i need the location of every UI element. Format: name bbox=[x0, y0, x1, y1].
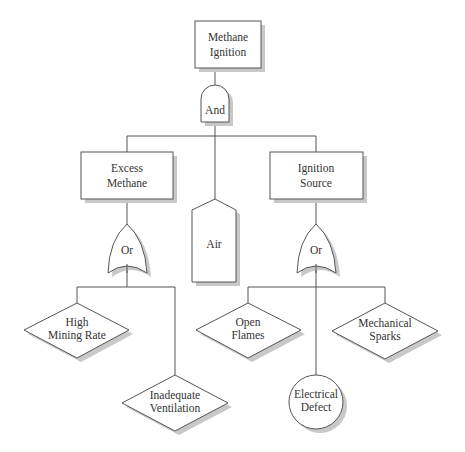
basic-event-high-mining-rate[interactable]: High Mining Rate bbox=[24, 303, 133, 362]
open-flames-line1: Open bbox=[236, 316, 261, 329]
electrical-defect-line1: Electrical bbox=[294, 388, 338, 400]
basic-event-inadequate-ventilation[interactable]: Inadequate Ventilation bbox=[122, 375, 232, 435]
or-gate-right-label: Or bbox=[310, 244, 322, 256]
mechanical-sparks-line2: Sparks bbox=[369, 330, 401, 343]
top-event-methane-ignition[interactable]: Methane Ignition bbox=[195, 21, 265, 72]
fault-tree-diagram: Methane Ignition And Excess Methane Air … bbox=[0, 0, 465, 452]
air-label: Air bbox=[206, 238, 222, 250]
or-gate-left-label: Or bbox=[121, 244, 133, 256]
basic-event-mechanical-sparks[interactable]: Mechanical Sparks bbox=[332, 303, 442, 363]
top-event-label-line2: Ignition bbox=[210, 46, 247, 59]
high-mining-rate-line1: High bbox=[66, 316, 89, 329]
electrical-defect-line2: Defect bbox=[301, 401, 332, 413]
or-gate-right[interactable]: Or bbox=[297, 224, 340, 277]
mechanical-sparks-line1: Mechanical bbox=[358, 317, 412, 329]
house-event-air[interactable]: Air bbox=[192, 199, 240, 286]
top-event-label-line1: Methane bbox=[208, 31, 248, 43]
basic-event-open-flames[interactable]: Open Flames bbox=[196, 303, 305, 362]
inadequate-ventilation-line2: Ventilation bbox=[150, 402, 201, 414]
basic-event-electrical-defect[interactable]: Electrical Defect bbox=[289, 375, 347, 433]
and-gate[interactable]: And bbox=[201, 85, 233, 126]
event-ignition-source[interactable]: Ignition Source bbox=[270, 152, 367, 203]
or-gate-left[interactable]: Or bbox=[108, 224, 151, 277]
ignition-source-line2: Source bbox=[300, 177, 332, 189]
ignition-source-line1: Ignition bbox=[298, 162, 335, 175]
and-gate-label: And bbox=[205, 104, 225, 116]
event-excess-methane[interactable]: Excess Methane bbox=[81, 152, 177, 203]
high-mining-rate-line2: Mining Rate bbox=[48, 329, 106, 342]
open-flames-line2: Flames bbox=[231, 329, 265, 341]
excess-methane-line1: Excess bbox=[111, 162, 143, 174]
inadequate-ventilation-line1: Inadequate bbox=[150, 389, 200, 402]
excess-methane-line2: Methane bbox=[107, 177, 147, 189]
